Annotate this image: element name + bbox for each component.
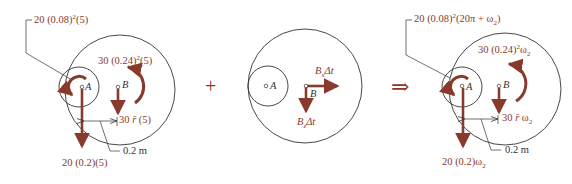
moment-b-label: 30 (0.24)2(5) (98, 56, 152, 67)
point-b-marker (304, 84, 308, 88)
impulse-z-label: BzΔt (297, 117, 315, 128)
plus-operator: + (205, 76, 216, 96)
point-a-marker (460, 84, 464, 88)
impulse-momentum-diagram: + ⇒ 20 (0.08)2(5) 30 (0.24)2(5) A B 30 r… (0, 0, 572, 184)
point-b-label: B (503, 80, 509, 91)
leader-line-moment-a (406, 20, 450, 78)
dimension-label: 0.2 m (505, 145, 529, 156)
force-b-label: 30 r̄ ω2 (502, 113, 532, 124)
force-a-label: 20 (0.2)ω2 (442, 157, 486, 168)
point-a-label: A (85, 82, 91, 93)
point-a-label: A (466, 82, 472, 93)
leader-line-moment-a (26, 20, 72, 80)
impulse-x-label: BxΔt (315, 66, 334, 77)
point-b-marker (116, 85, 120, 89)
dimension-label: 0.2 m (123, 146, 147, 157)
moment-b-arrow (128, 67, 144, 103)
moment-b-label: 30 (0.24)2ω2 (478, 45, 530, 56)
force-a-label: 20 (0.2)(5) (62, 158, 108, 169)
moment-a-label: 20 (0.08)2(5) (34, 15, 88, 26)
point-b-label: B (310, 89, 316, 100)
point-b-marker (497, 84, 501, 88)
moment-a-label: 20 (0.08)2(20π + ω2) (414, 14, 500, 25)
implies-operator: ⇒ (391, 76, 409, 98)
right-diagram (406, 20, 561, 150)
moment-b-arrow (509, 64, 526, 101)
left-diagram (26, 20, 175, 151)
point-a-marker (80, 85, 84, 89)
point-a-marker (264, 84, 268, 88)
force-b-label: 30 r̄ (5) (119, 115, 151, 126)
point-b-label: B (122, 80, 128, 91)
point-a-label: A (270, 81, 276, 92)
